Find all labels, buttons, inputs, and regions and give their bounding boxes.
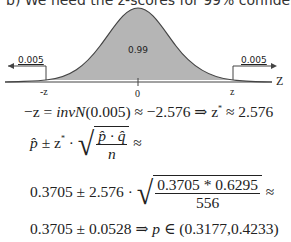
radical-sign: √ <box>137 177 153 210</box>
left-tail-label: 0.005 <box>18 55 44 65</box>
equation-line-3: 0.3705 ± 2.576 · √0.3705 * 0.6295556 ≈ <box>30 175 274 211</box>
equation-line-1: −z = invN(0.005) ≈ −2.576 ⇒ z* ≈ 2.576 <box>24 103 273 121</box>
center-area-label: 0.99 <box>128 45 148 55</box>
tick-center-label: 0 <box>135 88 140 99</box>
axis-label: Z <box>276 74 283 89</box>
fraction: 0.3705 * 0.6295556 <box>153 175 262 211</box>
tick-right-label: z <box>230 86 234 97</box>
fraction: p̂ · q̂n <box>94 126 129 162</box>
shaded-region <box>46 8 233 80</box>
right-tail-label: 0.005 <box>241 55 267 65</box>
equation-line-2: p̂ ± z* · √p̂ · q̂n ≈ <box>30 126 142 162</box>
equation-line-4: 0.3705 ± 0.0528 ⇒ p ∈ (0.3177,0.4233) <box>30 220 279 238</box>
tick-left-label: -z <box>40 86 48 97</box>
radical-sign: √ <box>78 128 94 161</box>
